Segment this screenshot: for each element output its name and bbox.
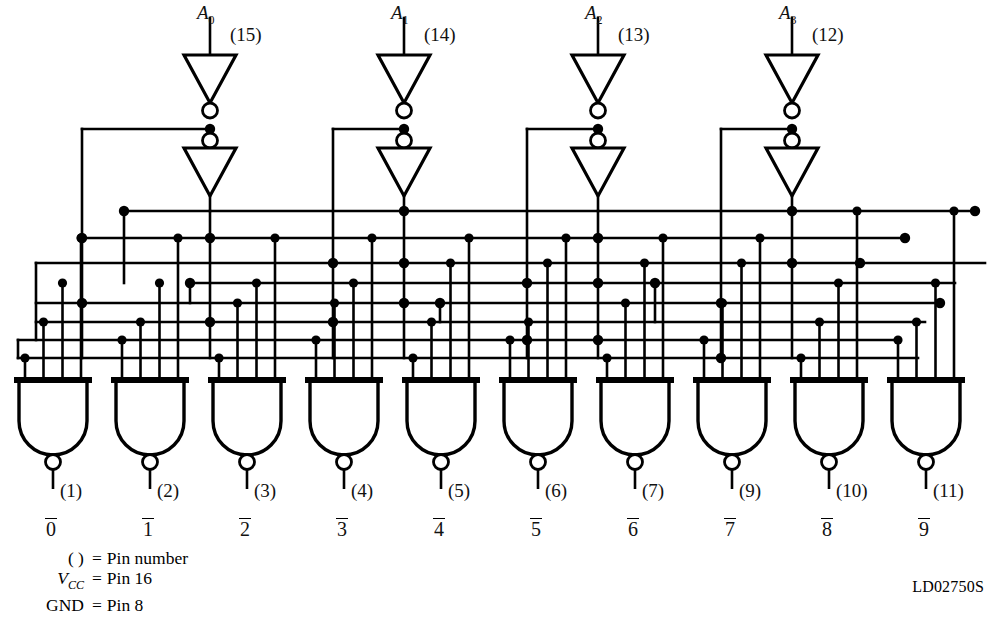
junction-dot: [593, 124, 603, 134]
junction-dot: [399, 258, 409, 268]
input-pin-number: (13): [618, 24, 650, 46]
legend-key: VCC: [46, 568, 87, 595]
junction-dot: [855, 258, 865, 268]
legend-key: ( ): [46, 548, 87, 568]
output-label: 8: [821, 518, 833, 541]
junction-dot: [602, 353, 611, 362]
input-label-A3: A3: [779, 2, 797, 28]
nand-gate-body: [213, 380, 281, 455]
junction-dot: [446, 258, 455, 267]
inverter-triangle: [572, 55, 624, 103]
output-label-text: 5: [530, 518, 542, 540]
inversion-bubble: [397, 133, 412, 148]
inverter-triangle: [572, 148, 624, 196]
legend-equals: =: [87, 595, 107, 615]
junction-dot: [658, 233, 667, 242]
junction-dot: [435, 298, 445, 308]
junction-dot: [524, 317, 533, 326]
output-label: 6: [627, 518, 639, 541]
junction-dot: [640, 258, 649, 267]
nand-gate-body: [892, 380, 960, 455]
inverter-triangle: [378, 55, 430, 103]
junction-dot: [330, 298, 339, 307]
junction-dot: [755, 233, 764, 242]
inversion-bubble: [46, 455, 61, 470]
input-index: 2: [597, 13, 603, 27]
junction-dot: [935, 298, 945, 308]
junction-dot: [787, 124, 797, 134]
junction-dot: [543, 258, 552, 267]
inversion-bubble: [397, 103, 412, 118]
nand-gate-body: [19, 380, 87, 455]
junction-dot: [119, 206, 129, 216]
inversion-bubble: [591, 103, 606, 118]
legend-equals: =: [87, 568, 107, 595]
output-label: 0: [45, 518, 57, 541]
junction-dot: [20, 353, 29, 362]
junction-dot: [367, 233, 376, 242]
input-pin-number: (12): [812, 24, 844, 46]
junction-dot: [136, 317, 145, 326]
input-label-A2: A2: [585, 2, 603, 28]
input-index: 3: [791, 13, 797, 27]
inverter-triangle: [184, 55, 236, 103]
inverter-triangle: [766, 55, 818, 103]
junction-dot: [214, 353, 223, 362]
junction-dot: [893, 335, 902, 344]
output-pin-number: (6): [545, 480, 567, 502]
inversion-bubble: [240, 455, 255, 470]
output-label-text: 7: [724, 518, 736, 540]
legend: ( )=Pin numberVCC=Pin 16GND=Pin 8: [46, 548, 191, 615]
junction-dot: [399, 206, 409, 216]
input-name: A: [391, 2, 403, 23]
output-label-text: 3: [336, 518, 348, 540]
nand-gate-body: [698, 380, 766, 455]
nand-gate-body: [795, 380, 863, 455]
junction-dot: [737, 258, 746, 267]
output-label: 4: [433, 518, 445, 541]
nand-gate-body: [116, 380, 184, 455]
inversion-bubble: [531, 455, 546, 470]
legend-value: Pin number: [107, 548, 191, 568]
output-label-text: 1: [142, 518, 154, 540]
junction-dot: [716, 298, 726, 308]
junction-dot: [155, 278, 164, 287]
output-pin-number: (10): [836, 480, 868, 502]
inversion-bubble: [591, 133, 606, 148]
output-pin-number: (1): [60, 480, 82, 502]
legend-value: Pin 8: [107, 595, 191, 615]
junction-dot: [464, 233, 473, 242]
junction-dot: [621, 298, 630, 307]
output-label: 9: [918, 518, 930, 541]
junction-dot: [815, 317, 824, 326]
junction-dot: [77, 233, 87, 243]
junction-dot: [205, 317, 215, 327]
inverter-triangle: [766, 148, 818, 196]
junction-dot: [593, 278, 603, 288]
output-label: 2: [239, 518, 251, 541]
junction-dot: [787, 258, 797, 268]
output-label-text: 8: [821, 518, 833, 540]
output-pin-number: (9): [739, 480, 761, 502]
output-label: 5: [530, 518, 542, 541]
output-label: 1: [142, 518, 154, 541]
junction-dot: [185, 278, 195, 288]
nand-gate-body: [601, 380, 669, 455]
output-pin-number: (11): [933, 480, 964, 502]
output-pin-number: (7): [642, 480, 664, 502]
input-index: 1: [403, 13, 409, 27]
output-label-text: 9: [918, 518, 930, 540]
inversion-bubble: [203, 103, 218, 118]
junction-dot: [796, 353, 805, 362]
output-pin-number: (3): [254, 480, 276, 502]
inverter-triangle: [184, 148, 236, 196]
inversion-bubble: [337, 455, 352, 470]
inversion-bubble: [725, 455, 740, 470]
inversion-bubble: [203, 133, 218, 148]
junction-dot: [233, 298, 242, 307]
output-label: 7: [724, 518, 736, 541]
junction-dot: [173, 233, 182, 242]
junction-dot: [311, 335, 320, 344]
junction-dot: [328, 317, 338, 327]
output-label: 3: [336, 518, 348, 541]
